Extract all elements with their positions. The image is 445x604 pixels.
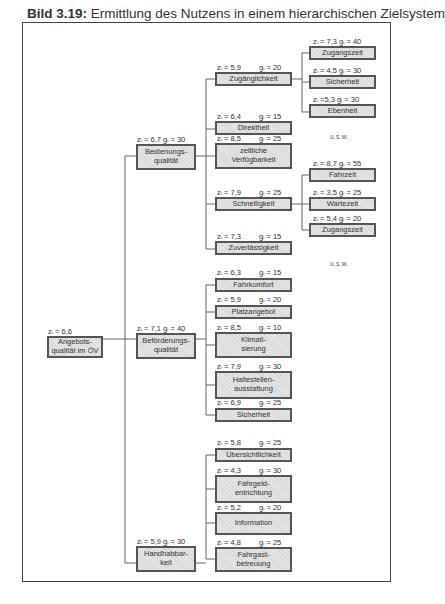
fahrgeld-z: zᵢ = 4,3 (217, 466, 241, 475)
node-sicherheit-befoerderung: Sicherheit (215, 408, 292, 422)
node-fahrgastbetreuung: Fahrgast- betreuung (215, 547, 292, 572)
uebersichtlichkeit-z: zᵢ = 5,8 (217, 438, 241, 447)
direktheit-g: gᵢ = 15 (259, 112, 281, 121)
node-bedienungsqualitaet: Bedienungs- qualität (136, 144, 196, 170)
node-fahrgeldentrichtung: Fahrgeld- entrichtung (215, 475, 292, 503)
node-uebersichtlichkeit: Übersichtlichkeit (215, 448, 292, 462)
node-zugaenglichkeit: Zugänglichkeit (215, 72, 292, 86)
bedienung-zg: zᵢ = 6,7 gᵢ = 30 (137, 135, 185, 144)
information-g: gᵢ = 20 (259, 503, 281, 512)
node-ebenheit: Ebenheit (309, 104, 376, 118)
platzangebot-z: zᵢ = 5,9 (217, 295, 241, 304)
node-zugangszeit: Zugangszeit (309, 46, 376, 60)
zugaenglichkeit-z: zᵢ = 5,9 (217, 63, 241, 72)
fahrkomfort-z: zᵢ = 6,3 (217, 268, 241, 277)
zuverlaessigkeit-g: gᵢ = 15 (259, 232, 281, 241)
node-befoerderungsqualitaet: Beförderungs- qualität (136, 333, 196, 359)
handhabbarkeit-zg: zᵢ = 5,9 gᵢ = 30 (137, 537, 185, 546)
klimatisierung-g: gᵢ = 10 (259, 323, 281, 332)
ebenheit-zg: zᵢ =5,3 gᵢ = 30 (313, 95, 359, 104)
fahrkomfort-g: gᵢ = 15 (259, 268, 281, 277)
verfuegbarkeit-z: zᵢ = 8,5 (217, 134, 241, 143)
platzangebot-g: gᵢ = 20 (259, 295, 281, 304)
zugangszeit1-zg: zᵢ = 7,3 gᵢ = 40 (313, 37, 361, 46)
node-direktheit: Direktheit (215, 121, 292, 135)
node-schnelligkeit: Schnelligkeit (215, 197, 292, 211)
node-handhabbarkeit: Handhabbar- keit (136, 546, 196, 572)
schnelligkeit-g: gᵢ = 25 (259, 188, 281, 197)
direktheit-z: zᵢ = 6,4 (217, 112, 241, 121)
uebersichtlichkeit-g: gᵢ = 25 (259, 438, 281, 447)
node-zuverlaessigkeit: Zuverlässigkeit (215, 241, 292, 255)
fahrgeld-g: gᵢ = 30 (259, 466, 281, 475)
fahrgastbetreuung-z: zᵢ = 4,8 (217, 538, 241, 547)
node-sicherheit-zugang: Sicherheit (309, 75, 376, 89)
zuverlaessigkeit-z: zᵢ = 7,3 (217, 232, 241, 241)
node-wartezeit: Wartezeit (309, 197, 376, 211)
sicherheit2-g: gᵢ = 25 (259, 398, 281, 407)
klimatisierung-z: zᵢ = 8,5 (217, 323, 241, 332)
befoerderung-zg: zᵢ = 7,1 gᵢ = 40 (137, 324, 185, 333)
zugangszeit2-zg: zᵢ = 5,4 gᵢ = 20 (313, 214, 361, 223)
node-information: Information (215, 512, 292, 535)
zugaenglichkeit-g: gᵢ = 20 (259, 63, 281, 72)
node-zeitliche-verfuegbarkeit: zeitliche Verfügbarkeit (215, 143, 292, 169)
ellipsis-text-2: u.s.w. (330, 260, 348, 267)
information-z: zᵢ = 5,2 (217, 503, 241, 512)
ellipsis-text-1: u.s.w. (330, 133, 348, 140)
node-fahrzeit: Fahrzeit (309, 168, 376, 182)
fahrzeit-zg: zᵢ = 8,7 gᵢ = 55 (313, 159, 361, 168)
verfuegbarkeit-g: gᵢ = 25 (259, 134, 281, 143)
node-platzangebot: Platzangebot (215, 305, 292, 319)
node-zugangszeit-schnelligkeit: Zugangszeit (309, 223, 376, 237)
schnelligkeit-z: zᵢ = 7,9 (217, 188, 241, 197)
sicherheit2-z: zᵢ = 6,9 (217, 398, 241, 407)
node-angebotsqualitaet: Angebots- qualität im ÖV (47, 336, 103, 358)
haltestellen-z: zᵢ = 7,9 (217, 362, 241, 371)
root-z-value: zᵢ = 6,6 (48, 327, 72, 336)
node-fahrkomfort: Fahrkomfort (215, 278, 292, 292)
sicherheit1-zg: zᵢ = 4,5 gᵢ = 30 (313, 66, 361, 75)
wartezeit-zg: zᵢ = 3,5 gᵢ = 25 (313, 188, 361, 197)
node-klimatisierung: Klimati- sierung (215, 332, 292, 358)
node-haltestellenausstattung: Haltestellen- ausstattung (215, 371, 292, 399)
fahrgastbetreuung-g: gᵢ = 25 (259, 538, 281, 547)
haltestellen-g: gᵢ = 30 (259, 362, 281, 371)
